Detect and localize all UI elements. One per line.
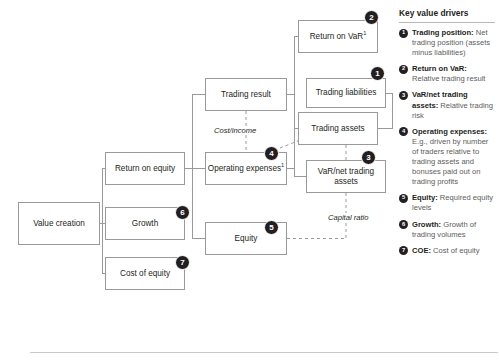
edge-label-cost-income: Cost/income bbox=[212, 126, 258, 135]
node-label: Trading liabilities bbox=[316, 88, 377, 98]
node-label: Return on equity bbox=[115, 164, 175, 174]
badge-marker-2: 2 bbox=[364, 10, 379, 25]
node-label: Value creation bbox=[33, 219, 85, 229]
node-label: Trading result bbox=[221, 90, 271, 100]
legend-term: Growth: bbox=[412, 220, 441, 229]
edge-label-capital-ratio: Capital ratio bbox=[326, 213, 371, 222]
legend-description: Cost of equity bbox=[431, 246, 480, 255]
legend-term: Trading position: bbox=[412, 28, 474, 37]
legend-term: Operating expenses: bbox=[412, 127, 487, 136]
node-cost-of-equity: Cost of equity bbox=[105, 257, 185, 290]
edge-label-text: Cost/income bbox=[214, 126, 256, 135]
badge-marker-7: 7 bbox=[175, 255, 190, 270]
node-trading-result: Trading result bbox=[205, 78, 287, 111]
node-label: Growth bbox=[132, 219, 158, 229]
legend-badge-icon: 2 bbox=[399, 65, 408, 74]
node-var-net-trading-assets: VaR/net trading assets bbox=[306, 160, 386, 193]
badge-number: 6 bbox=[180, 208, 184, 217]
node-label: Trading assets bbox=[311, 124, 364, 134]
edge-label-text: Capital ratio bbox=[328, 213, 369, 222]
node-growth: Growth bbox=[105, 207, 185, 240]
legend-item-3: 3 VaR/net trading assets: Relative tradi… bbox=[399, 90, 495, 120]
legend-item-2: 2 Return on VaR: Relative trading result bbox=[399, 64, 495, 84]
legend-term: COE: bbox=[412, 246, 431, 255]
legend-term: Equity: bbox=[412, 193, 438, 202]
legend-description: E.g., driven by number of traders relati… bbox=[412, 137, 488, 186]
badge-number: 3 bbox=[366, 153, 370, 162]
badge-marker-5: 5 bbox=[264, 220, 279, 235]
badge-number: 2 bbox=[369, 13, 373, 22]
legend-item-6: 6 Growth: Growth of trading volumes bbox=[399, 220, 495, 240]
badge-number: 7 bbox=[180, 258, 184, 267]
legend-badge-icon: 6 bbox=[399, 220, 408, 229]
legend-badge-icon: 3 bbox=[399, 91, 408, 100]
badge-number: 1 bbox=[375, 69, 379, 78]
node-label: Cost of equity bbox=[120, 269, 170, 279]
badge-marker-4: 4 bbox=[264, 146, 279, 161]
legend-badge-icon: 7 bbox=[399, 246, 408, 255]
node-label: VaR/net trading assets bbox=[307, 167, 385, 187]
key-value-drivers-legend: Key value drivers 1 Trading position: Ne… bbox=[399, 8, 495, 262]
node-trading-liabilities: Trading liabilities bbox=[306, 78, 386, 108]
badge-marker-6: 6 bbox=[175, 205, 190, 220]
node-label: Return on VaR1 bbox=[310, 32, 367, 42]
badge-marker-1: 1 bbox=[370, 66, 385, 81]
badge-marker-3: 3 bbox=[361, 150, 376, 165]
node-return-on-var: Return on VaR1 bbox=[298, 20, 378, 53]
legend-term: Return on VaR: bbox=[412, 64, 467, 73]
legend-badge-icon: 4 bbox=[399, 127, 408, 136]
node-return-on-equity: Return on equity bbox=[105, 152, 185, 185]
value-driver-tree-diagram: Value creation Return on equity Growth C… bbox=[0, 0, 499, 363]
legend-item-7: 7 COE: Cost of equity bbox=[399, 246, 495, 256]
legend-title: Key value drivers bbox=[399, 8, 495, 23]
legend-item-1: 1 Trading position: Net trading position… bbox=[399, 28, 495, 58]
footer-divider bbox=[30, 352, 498, 353]
badge-number: 5 bbox=[269, 223, 273, 232]
legend-badge-icon: 1 bbox=[399, 29, 408, 38]
legend-badge-icon: 5 bbox=[399, 194, 408, 203]
node-label: Operating expenses1 bbox=[208, 164, 284, 174]
legend-description: Relative trading result bbox=[412, 74, 485, 83]
node-trading-assets: Trading assets bbox=[298, 112, 378, 145]
legend-item-5: 5 Equity: Required equity levels bbox=[399, 193, 495, 213]
node-value-creation: Value creation bbox=[18, 202, 100, 245]
node-label: Equity bbox=[235, 234, 258, 244]
badge-number: 4 bbox=[269, 149, 273, 158]
legend-item-4: 4 Operating expenses: E.g., driven by nu… bbox=[399, 127, 495, 188]
